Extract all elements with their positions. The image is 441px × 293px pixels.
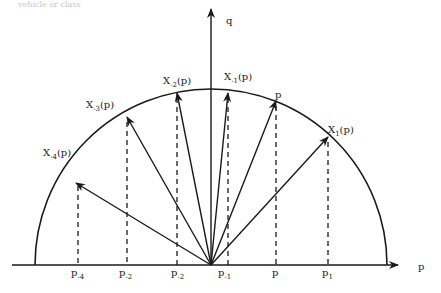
foot-label-p: p [272,267,278,278]
vector-x-1 [211,93,228,265]
top-caption: vehicle or class [17,0,80,9]
vector-p [211,101,276,265]
label-x1: X1(p) [328,124,354,138]
label-p-vector: p [275,89,281,100]
vector-x-4 [76,183,211,265]
label-x-2: X-2(p) [163,75,191,89]
foot-label-p-3: p-2 [119,267,132,281]
foot-label-p-1: p-1 [218,267,231,281]
vector-x-2 [177,93,211,265]
label-x-1: X-1(p) [224,71,252,85]
foot-label-p-2: p-2 [171,267,184,281]
label-x-3: X-3(p) [86,99,114,113]
foot-label-p-4: p-4 [71,267,85,281]
vector-x-3 [127,117,211,265]
q-axis-label: q [226,15,233,26]
p-axis-label: p [418,261,424,272]
foot-label-p1: p1 [322,267,333,281]
projection-lines [78,98,328,265]
diagram-canvas: vehicle or class p q X-4(p) X-3(p) X-2(p… [0,0,441,293]
label-x-4: X-4(p) [43,147,71,161]
